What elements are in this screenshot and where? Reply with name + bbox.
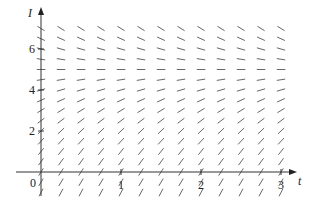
slope-segment [178,128,184,134]
slope-segment [218,138,224,144]
slope-segment [158,148,163,155]
slope-segment [157,79,165,80]
slope-segment [197,26,204,30]
slope-segment [238,148,243,155]
slope-segment [117,37,125,41]
slope-segment [138,128,144,134]
slope-segment [57,48,65,50]
slope-segment [137,99,145,103]
slope-segment [277,79,285,80]
slope-segment [258,148,263,155]
slope-segment [278,118,285,123]
slope-segment [97,37,105,41]
slope-segment [98,138,104,144]
slope-segment [259,179,263,186]
slope-segment [178,138,184,144]
slope-segment [239,189,243,196]
slope-segment [59,189,63,196]
slope-segment [138,118,145,123]
slope-segment [237,48,245,50]
slope-segment [98,128,104,134]
slope-segment [99,189,103,196]
slope-segment [218,148,223,155]
slope-segment [78,128,84,134]
i-tick-label: 4 [29,83,35,97]
t-tick-label: 2 [198,178,204,192]
slope-segment [159,158,164,165]
slope-segment [97,26,104,30]
slope-segment [197,108,204,112]
slope-segment [97,108,104,112]
slope-segment [258,118,265,123]
slope-segment [59,179,63,186]
slope-segment [218,118,225,123]
slope-segment [118,148,123,155]
slope-segment [139,158,144,165]
slope-segment [177,59,185,60]
slope-segment [57,79,65,80]
slope-segment [217,48,225,50]
slope-segment [138,148,143,155]
slope-segment [199,158,204,165]
slope-segment [117,26,124,30]
slope-segment [219,179,223,186]
slope-segment [238,128,244,134]
slope-segment [158,138,164,144]
slope-segment [117,99,125,103]
slope-segment [137,79,145,80]
slope-segment [237,59,245,60]
slope-segment [277,89,285,91]
slope-segment [57,89,65,91]
slope-segments [37,26,285,196]
slope-segment [177,37,185,41]
slope-segment [237,26,244,30]
slope-segment [217,79,225,80]
slope-segment [257,26,264,30]
slope-segment [99,158,104,165]
slope-segment [137,26,144,30]
slope-segment [197,59,205,60]
slope-segment [117,108,124,112]
slope-segment [277,37,285,41]
slope-segment [177,99,185,103]
slope-segment [78,148,83,155]
slope-segment [119,158,124,165]
slope-segment [277,48,285,50]
slope-segment [177,79,185,80]
slope-segment [58,138,64,144]
slope-segment [277,26,284,30]
slope-segment [198,138,204,144]
slope-segment [279,158,284,165]
slope-segment [57,37,65,41]
slope-segment [257,79,265,80]
slope-segment [158,128,164,134]
slope-segment [197,48,205,50]
slope-segment [138,138,144,144]
slope-segment [78,118,85,123]
slope-segment [77,26,84,30]
slope-segment [118,138,124,144]
slope-segment [219,158,224,165]
slope-segment [217,99,225,103]
slope-segment [157,99,165,103]
slope-segment [77,37,85,41]
slope-segment [257,89,265,91]
slope-segment [197,37,205,41]
slope-segment [257,48,265,50]
i-tick-labels: 246 [29,42,35,138]
slope-segment [177,48,185,50]
slope-segment [277,99,285,103]
slope-segment [179,189,183,196]
slope-segment [157,89,165,91]
slope-segment [278,128,284,134]
i-axis-label: I [27,6,33,20]
slope-segment [179,179,183,186]
slope-segment [198,148,203,155]
slope-segment [77,79,85,80]
slope-segment [177,89,185,91]
slope-segment [159,179,163,186]
slope-segment [98,118,105,123]
slope-segment [238,138,244,144]
slope-segment [198,128,204,134]
slope-segment [117,48,125,50]
